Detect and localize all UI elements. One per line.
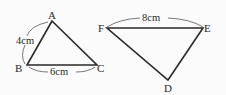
ab-arc-lower xyxy=(23,45,26,64)
bc-arc-left xyxy=(29,67,48,72)
fe-arc-left xyxy=(107,18,140,27)
fe-length-label: 8cm xyxy=(142,12,160,23)
triangle-abc xyxy=(23,21,98,72)
triangles-diagram: A B C 4cm 6cm F E D 8cm xyxy=(0,0,226,95)
vertex-e-label: E xyxy=(204,22,211,34)
vertex-c-label: C xyxy=(97,62,104,74)
triangle-fed-edges xyxy=(107,28,203,80)
fe-arc-right xyxy=(168,18,203,27)
ab-length-label: 4cm xyxy=(16,35,34,46)
bc-length-label: 6cm xyxy=(50,66,68,77)
vertex-a-label: A xyxy=(48,9,56,21)
geometry-figure: A B C 4cm 6cm F E D 8cm xyxy=(0,0,226,95)
vertex-d-label: D xyxy=(164,82,172,94)
bc-arc-right xyxy=(76,67,95,72)
triangle-fed xyxy=(107,18,203,80)
vertex-f-label: F xyxy=(98,22,104,34)
vertex-b-label: B xyxy=(15,62,22,74)
triangle-abc-edges xyxy=(27,21,97,65)
